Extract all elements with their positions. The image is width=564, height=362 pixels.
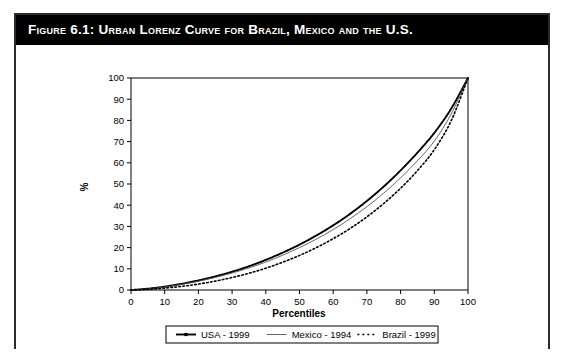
x-tick-label: 70	[362, 296, 373, 307]
figure-title-bar: Figure 6.1: Urban Lorenz Curve for Brazi…	[16, 15, 548, 45]
legend-label: Mexico - 1994	[292, 329, 352, 340]
lorenz-curve-chart: 0102030405060708090100 01020304050607080…	[16, 45, 548, 349]
data-series-group	[131, 78, 468, 290]
x-tick-label: 60	[328, 296, 339, 307]
x-axis-title: Percentiles	[272, 308, 326, 319]
x-tick-label: 100	[460, 296, 476, 307]
y-tick-label: 60	[113, 157, 124, 168]
x-tick-label: 80	[395, 296, 406, 307]
y-tick-label: 20	[113, 242, 124, 253]
x-tick-label: 40	[261, 296, 272, 307]
legend-point-marker	[184, 333, 187, 336]
legend-label: USA - 1999	[201, 329, 250, 340]
series-line-2	[131, 78, 468, 290]
x-tick-label: 30	[227, 296, 238, 307]
x-tick-label: 50	[294, 296, 305, 307]
y-tick-label: 10	[113, 263, 124, 274]
axis-frame	[131, 78, 468, 290]
series-line-0	[131, 78, 468, 290]
plot-region: 0102030405060708090100 01020304050607080…	[16, 45, 548, 349]
y-tick-label: 90	[113, 94, 124, 105]
figure-title: Figure 6.1: Urban Lorenz Curve for Brazi…	[28, 15, 413, 45]
y-tick-label: 70	[113, 136, 124, 147]
x-tick-label: 0	[128, 296, 133, 307]
legend-label: Brazil - 1999	[382, 329, 435, 340]
x-tick-label: 20	[193, 296, 204, 307]
y-tick-label: 50	[113, 178, 124, 189]
y-tick-label: 100	[108, 72, 124, 83]
x-tick-label: 10	[159, 296, 170, 307]
figure-container: Figure 6.1: Urban Lorenz Curve for Brazi…	[14, 13, 550, 349]
y-tick-label: 30	[113, 221, 124, 232]
y-axis-title: %	[79, 182, 90, 191]
y-tick-label: 0	[119, 284, 124, 295]
y-axis: 0102030405060708090100	[108, 72, 131, 295]
series-line-1	[131, 78, 468, 290]
x-tick-label: 90	[429, 296, 440, 307]
chart-legend: USA - 1999Mexico - 1994Brazil - 1999	[166, 326, 438, 343]
x-axis: 0102030405060708090100	[128, 290, 476, 307]
y-tick-label: 80	[113, 115, 124, 126]
y-tick-label: 40	[113, 200, 124, 211]
